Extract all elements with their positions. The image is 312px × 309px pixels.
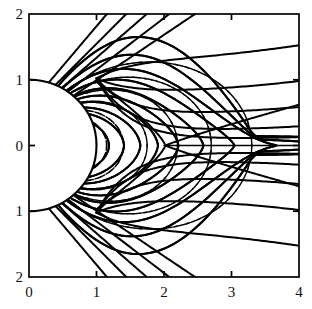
x-tick-label: 1 bbox=[93, 285, 101, 300]
y-tick-label: 1 bbox=[16, 73, 24, 88]
y-tick-label: 2 bbox=[16, 270, 24, 285]
y-tick-label: 0 bbox=[16, 139, 24, 154]
x-tick-label: 0 bbox=[25, 285, 33, 300]
x-tick-label: 4 bbox=[295, 285, 303, 300]
y-tick-label: 1 bbox=[16, 204, 24, 219]
tail-field-line bbox=[97, 45, 302, 79]
x-tick-label: 2 bbox=[160, 285, 168, 300]
planet-half-disc bbox=[29, 80, 96, 212]
tail-field-line bbox=[97, 213, 302, 247]
field-line-plot bbox=[0, 0, 312, 309]
x-tick-label: 3 bbox=[228, 285, 236, 300]
field-line-group bbox=[29, 0, 312, 298]
y-tick-label: 2 bbox=[16, 7, 24, 22]
figure-panel: 0123421012 bbox=[0, 0, 312, 309]
